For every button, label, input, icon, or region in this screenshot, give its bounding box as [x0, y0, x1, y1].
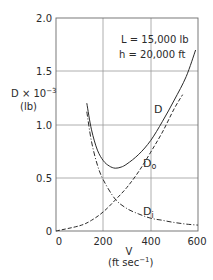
ytick-label: 1.0: [36, 120, 52, 131]
xtick-label: 0: [56, 236, 62, 247]
annotation-altitude: h = 20,000 ft: [119, 49, 186, 60]
ytick-label: 1.5: [36, 66, 52, 77]
svg-text:Do: Do: [143, 157, 156, 171]
label-Di-subscript: i: [151, 211, 153, 220]
x-axis-label: V (ft sec−1): [108, 246, 154, 268]
label-D0: D: [143, 157, 151, 170]
svg-text:D × 10−3: D × 10−3: [11, 87, 57, 99]
label-Di: D: [143, 205, 151, 218]
xlabel-units: (ft sec: [108, 257, 139, 268]
svg-text:Di: Di: [143, 205, 154, 220]
ylabel-exponent: −3: [46, 87, 56, 95]
ylabel-units: (lb): [20, 101, 37, 112]
curve-parasite-drag: [56, 95, 183, 231]
xtick-label: 600: [187, 236, 206, 247]
y-axis-label: D × 10−3 (lb): [11, 87, 57, 112]
xtick-label: 200: [93, 236, 112, 247]
curve-labels: D Do Di: [143, 103, 162, 220]
y-axis-ticks: 2.0 1.5 1.0 0.5 0: [36, 13, 52, 237]
drag-vs-velocity-chart: 2.0 1.5 1.0 0.5 0 0 200 400 600 D × 10−3…: [0, 0, 213, 280]
xtick-label: 400: [141, 236, 160, 247]
svg-text:(ft sec−1): (ft sec−1): [108, 256, 154, 268]
conditions-annotation: L = 15,000 lb h = 20,000 ft: [119, 34, 189, 60]
curves: [56, 50, 198, 231]
ytick-label: 2.0: [36, 13, 52, 24]
xlabel-units-exponent: −1: [139, 256, 149, 264]
ytick-label: 0.5: [36, 173, 52, 184]
ylabel-text: D × 10: [11, 88, 46, 99]
xlabel-text: V: [126, 246, 133, 257]
annotation-lift: L = 15,000 lb: [121, 34, 189, 45]
label-D: D: [154, 103, 162, 116]
ytick-label: 0: [46, 226, 52, 237]
xlabel-units-close: ): [150, 257, 154, 268]
label-D0-subscript: o: [151, 162, 156, 171]
